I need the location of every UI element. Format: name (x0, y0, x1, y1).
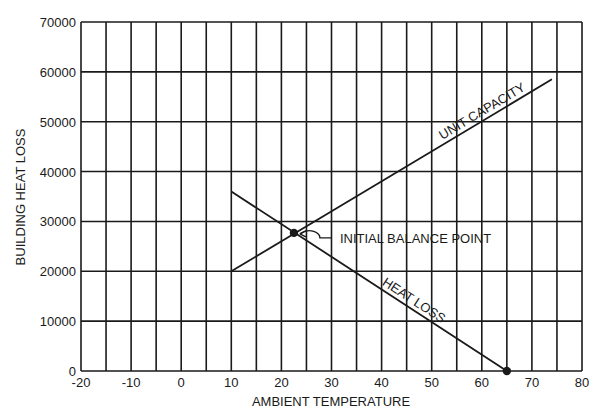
x-tick-label: 70 (525, 375, 539, 390)
x-tick-label: 0 (178, 375, 185, 390)
grid-lines (81, 22, 582, 371)
x-tick-label: 40 (374, 375, 388, 390)
annotations: UNIT CAPACITYHEAT LOSSINITIAL BALANCE PO… (300, 79, 528, 326)
x-axis-title: AMBIENT TEMPERATURE (252, 394, 411, 409)
y-tick-label: 50000 (40, 115, 76, 130)
x-tick-label: 30 (324, 375, 338, 390)
series-lines (231, 79, 552, 371)
y-axis-title: BUILDING HEAT LOSS (13, 128, 28, 265)
heat-loss-zero-marker (503, 367, 511, 375)
y-axis-ticks: 010000200003000040000500006000070000 (40, 15, 76, 379)
x-axis-ticks: -20-1001020304050607080 (72, 375, 590, 390)
x-tick-label: 80 (575, 375, 589, 390)
x-tick-label: 50 (424, 375, 438, 390)
x-tick-label: 60 (475, 375, 489, 390)
x-tick-label: 10 (224, 375, 238, 390)
y-tick-label: 40000 (40, 165, 76, 180)
x-tick-label: -10 (122, 375, 141, 390)
y-tick-label: 60000 (40, 65, 76, 80)
y-tick-label: 70000 (40, 15, 76, 30)
y-tick-label: 30000 (40, 214, 76, 229)
x-tick-label: 20 (274, 375, 288, 390)
heat-loss-line (231, 192, 507, 371)
balance-point-label: INITIAL BALANCE POINT (340, 231, 491, 246)
y-tick-label: 0 (69, 364, 76, 379)
balance-point-marker (290, 229, 298, 237)
y-tick-label: 20000 (40, 264, 76, 279)
chart-canvas: -20-1001020304050607080 0100002000030000… (0, 0, 599, 417)
y-tick-label: 10000 (40, 314, 76, 329)
heat-loss-label: HEAT LOSS (380, 274, 449, 326)
